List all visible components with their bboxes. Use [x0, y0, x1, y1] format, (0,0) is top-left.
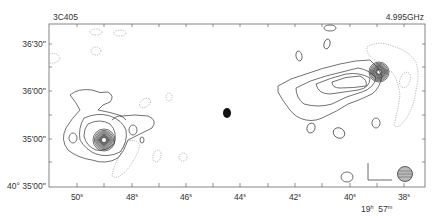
x-tick-label: 46s: [180, 193, 192, 202]
frequency-label: 4.995GHz: [386, 12, 424, 22]
x-tick-label: 42s: [289, 193, 301, 202]
x-tick-label: 40s: [344, 193, 356, 202]
contour-plot: [0, 0, 440, 220]
scale-bar: [368, 163, 392, 180]
x-tick-label: 48s: [126, 193, 138, 202]
y-tick-label: 40° 35'00'': [7, 182, 46, 191]
y-tick-label: 35'00'': [22, 135, 46, 144]
contour-map-figure: 3C405 4.995GHz 36'30'' 36'00'' 35'00'' 4…: [0, 0, 440, 220]
beam-ellipse: [398, 167, 413, 182]
east-lobe-contours: [63, 90, 154, 163]
y-axis-labels: 36'30'' 36'00'' 35'00'' 40° 35'00'': [0, 0, 46, 220]
y-tick-label: 36'30'': [22, 40, 46, 49]
x-epoch-label: 19h 57m: [361, 205, 392, 214]
west-lobe-contours: [278, 25, 389, 182]
x-tick-label: 50s: [71, 193, 83, 202]
y-tick-label: 36'00'': [22, 87, 46, 96]
negative-contours: [49, 29, 418, 177]
plot-frame: [49, 24, 425, 187]
x-tick-label: 44s: [234, 193, 246, 202]
source-name-label: 3C405: [53, 12, 78, 22]
core-source: [223, 108, 231, 118]
x-tick-label: 38s: [398, 193, 410, 202]
x-ticks: [77, 24, 404, 187]
